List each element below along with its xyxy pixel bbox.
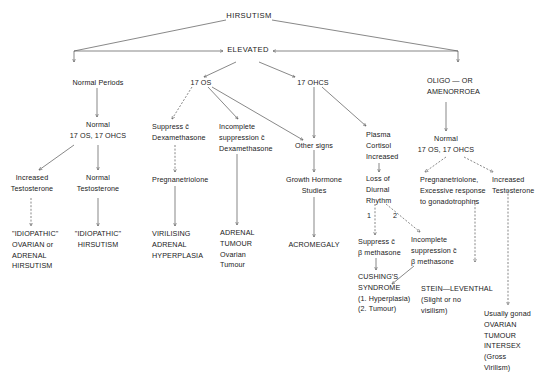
node-incomplete-suppression-dexamethasone: Incompletesuppression c̄Dexamethasone — [219, 122, 273, 154]
node-normal-periods: Normal Periods — [73, 78, 124, 89]
node-loss-diurnal-rhythm: Loss ofDiurnalRhythm — [366, 174, 391, 206]
node-virilising-adrenal-hyperplasia: VIRILISINGADRENALHYPERPLASIA — [152, 229, 203, 261]
node-suppress-beta-methasone: Suppress c̄β methasone — [358, 237, 401, 259]
node-normal-testosterone: NormalTestosterone — [77, 173, 119, 195]
node-cushings-syndrome: CUSHING'SSYNDROME(1. Hyperplasia)(2. Tum… — [358, 272, 410, 315]
node-elevated: ELEVATED — [227, 45, 269, 56]
node-adrenal-tumour: ADRENALTUMOUROvarianTumour — [220, 228, 255, 271]
node-17os: 17 OS — [191, 78, 212, 89]
node-oligo-amenorroea: OLIGO — ORAMENORROEA — [427, 76, 480, 98]
path-label-1: 1 — [367, 211, 371, 222]
node-normal-17os-right: Normal17 OS, 17 OHCS — [418, 134, 475, 156]
node-idiopathic-ovarian-adrenal: "IDIOPATHIC"OVARIAN orADRENALHIRSUTISM — [12, 229, 58, 272]
node-gonad-ovarian-tumour-intersex: Usually gonadOVARIANTUMOURINTERSEX(Gross… — [484, 309, 531, 374]
path-label-2: 2 — [393, 211, 397, 222]
node-suppress-dexamethasone: Suppress c̄Dexamethasone — [152, 122, 206, 144]
node-pregnanetriolone: Pregnanetriolone — [152, 175, 208, 186]
node-incomplete-suppression-beta-methasone: Incompletesuppression c̄β methasone — [411, 235, 457, 267]
hirsutism-flowchart: HIRSUTISM ELEVATED Normal Periods Normal… — [0, 0, 541, 374]
node-growth-hormone-studies: Growth HormoneStudies — [286, 175, 342, 197]
node-other-signs: Other signs — [295, 141, 333, 152]
node-pregnanetriolone-excessive-response: Pregnanetriolone,Excessive responseto go… — [420, 175, 486, 207]
node-stein-leventhal: STEIN—LEVENTHAL(Slight or novisilism) — [421, 284, 493, 316]
node-plasma-cortisol: PlasmaCortisolIncreased — [366, 130, 398, 162]
node-idiopathic-hirsutism: "IDIOPATHIC"HIRSUTISM — [75, 229, 121, 251]
node-increased-testosterone-right: IncreasedTestosterone — [492, 175, 534, 197]
node-acromegaly: ACROMEGALY — [288, 240, 339, 251]
node-increased-testosterone-left: IncreasedTestosterone — [11, 173, 53, 195]
node-hirsutism: HIRSUTISM — [226, 11, 271, 22]
node-17ohcs: 17 OHCS — [297, 78, 328, 89]
node-normal-17os-left: Normal17 OS, 17 OHCS — [70, 120, 127, 142]
